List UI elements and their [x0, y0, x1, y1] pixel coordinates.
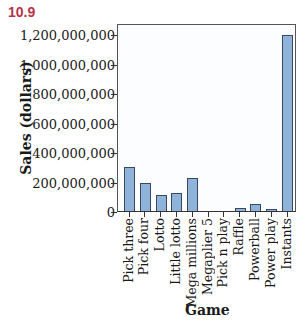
x-tick-mark [223, 212, 224, 217]
x-tick-label: Instants [279, 218, 294, 269]
bar [156, 195, 167, 211]
x-tick-label: Powerball [247, 218, 262, 281]
bar [124, 167, 135, 211]
x-tick-mark [192, 212, 193, 217]
x-tick-label: Pick three [121, 218, 136, 283]
bar [171, 193, 182, 211]
y-tick-label: 200,000,000 [32, 175, 115, 190]
x-tick-label: Lotto [152, 218, 167, 251]
x-tick-mark [287, 212, 288, 217]
x-tick-label: Raffle [231, 218, 246, 255]
bar [266, 209, 277, 211]
x-tick-label: Power play [263, 218, 278, 288]
x-tick-mark [144, 212, 145, 217]
x-tick-mark [239, 212, 240, 217]
y-tick-label: 600,000,000 [32, 116, 115, 131]
bar [187, 178, 198, 211]
bar [282, 35, 293, 211]
x-tick-label: Mega millions [184, 218, 199, 307]
y-tick-label: 800,000,000 [32, 87, 115, 102]
bar [140, 183, 151, 211]
x-tick-mark [208, 212, 209, 217]
x-tick-mark [271, 212, 272, 217]
x-tick-label: Pick n play [215, 218, 230, 288]
figure-number: 10.9 [8, 4, 35, 20]
x-tick-label: Little lotto [168, 218, 183, 285]
x-tick-label: Megaplier 5 [200, 218, 215, 295]
y-tick-mark [111, 212, 117, 213]
x-tick-mark [176, 212, 177, 217]
x-tick-mark [255, 212, 256, 217]
x-tick-mark [160, 212, 161, 217]
y-tick-label: 1,200,000,000 [20, 28, 115, 43]
x-axis-title: Game [185, 302, 230, 318]
x-tick-mark [129, 212, 130, 217]
y-tick-label: 400,000,000 [32, 146, 115, 161]
bar [250, 204, 261, 211]
bar [235, 208, 246, 211]
plot-area [117, 24, 296, 212]
x-tick-label: Pick four [136, 218, 151, 275]
y-tick-label: 1,000,000,000 [20, 57, 115, 72]
